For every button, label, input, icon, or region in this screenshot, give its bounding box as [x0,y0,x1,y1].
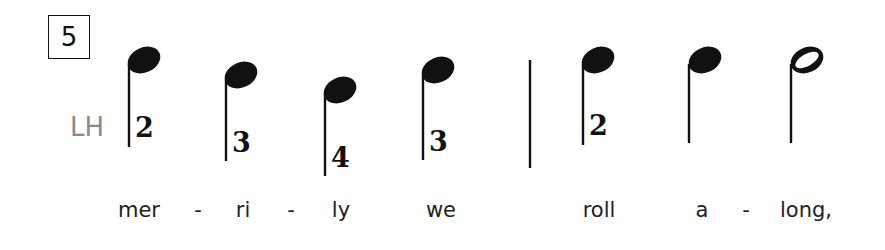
quarter-note-6 [684,41,725,143]
lyric-syllable: ri [236,198,250,222]
lyric-syllable: mer [118,198,160,222]
half-note-7 [786,41,827,143]
finger-number: 2 [589,110,608,141]
lyric-syllable: roll [583,198,616,222]
lyric-syllable: a [696,198,709,222]
lyric-hyphen: - [194,198,202,222]
lyric-syllable: we [426,198,456,222]
lyric-syllable: long, [780,198,832,222]
finger-number: 3 [429,126,448,157]
finger-number: 3 [232,127,251,158]
finger-number: 2 [135,112,154,143]
lyric-hyphen: - [742,198,750,222]
finger-number: 4 [331,142,350,173]
lyric-syllable: ly [332,198,350,222]
lyric-hyphen: - [287,198,295,222]
note-head [684,41,725,78]
